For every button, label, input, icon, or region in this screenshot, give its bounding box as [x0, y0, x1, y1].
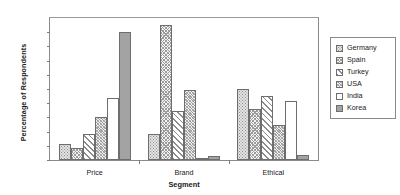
bar-india-price [107, 98, 119, 160]
bar-group: Brand [139, 18, 228, 160]
y-axis-tick [47, 160, 50, 161]
legend-swatch-icon [336, 93, 343, 100]
bar-spain-ethical [249, 109, 261, 160]
bar-usa-brand [184, 90, 196, 160]
legend-item-label: Germany [347, 44, 377, 51]
bar-korea-price [119, 32, 131, 160]
bar-group: Price [50, 18, 139, 160]
legend: GermanySpainTurkeyUSAIndiaKorea [330, 37, 396, 119]
legend-item-spain[interactable]: Spain [336, 54, 391, 66]
bar-india-brand [196, 158, 208, 160]
y-axis-title: Percentage of Respondents [19, 13, 28, 173]
bar-korea-brand [208, 156, 220, 160]
bar-turkey-price [83, 134, 95, 160]
legend-swatch-icon [336, 69, 343, 76]
bar-turkey-ethical [261, 96, 273, 160]
legend-item-label: USA [347, 80, 362, 87]
legend-item-label: Turkey [347, 68, 369, 75]
bar-germany-price [59, 144, 71, 160]
legend-item-label: Korea [347, 104, 366, 111]
legend-item-germany[interactable]: Germany [336, 42, 391, 54]
legend-swatch-icon [336, 105, 343, 112]
plot-area: 50%45%40%35%30%25%20%15%10%5%0% PriceBra… [49, 17, 319, 161]
legend-item-label: India [347, 92, 363, 99]
bar-spain-price [71, 148, 83, 160]
x-axis-tick-label: Ethical [229, 168, 318, 177]
legend-swatch-icon [336, 45, 343, 52]
legend-swatch-icon [336, 57, 343, 64]
bar-groups: PriceBrandEthical [50, 18, 318, 160]
legend-swatch-icon [336, 81, 343, 88]
bar-usa-price [95, 117, 107, 160]
bar-germany-brand [148, 134, 160, 160]
bar-korea-ethical [297, 155, 309, 160]
legend-item-turkey[interactable]: Turkey [336, 66, 391, 78]
legend-item-label: Spain [347, 56, 365, 63]
x-axis-title: Segment [49, 180, 319, 189]
legend-item-usa[interactable]: USA [336, 78, 391, 90]
x-axis-tick-label: Brand [139, 168, 228, 177]
bar-usa-ethical [273, 125, 285, 160]
x-axis-tick-label: Price [50, 168, 139, 177]
bar-india-ethical [285, 101, 297, 160]
bar-turkey-brand [172, 111, 184, 160]
bar-germany-ethical [237, 89, 249, 160]
bar-chart: Percentage of Respondents 50%45%40%35%30… [0, 0, 400, 195]
bar-group: Ethical [229, 18, 318, 160]
bar-spain-brand [160, 25, 172, 160]
legend-item-korea[interactable]: Korea [336, 102, 391, 114]
legend-item-india[interactable]: India [336, 90, 391, 102]
